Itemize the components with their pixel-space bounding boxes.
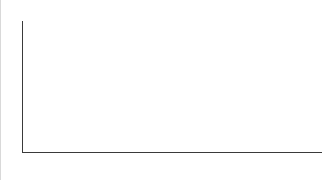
x-axis-line	[22, 152, 322, 153]
legend-swatch-republic-of-ireland	[66, 30, 75, 39]
legend-item-republic-of-ireland	[66, 30, 83, 39]
legend-item-northern-ireland	[109, 30, 126, 39]
legend-swatch-northern-ireland	[109, 30, 118, 39]
plot-area	[22, 22, 321, 152]
population-stacked-bar-chart	[0, 0, 325, 180]
vertical-rule-artifact-right	[0, 0, 1, 180]
chart-legend	[66, 30, 126, 39]
